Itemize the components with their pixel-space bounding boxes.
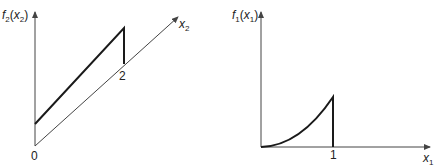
left-plot: f2(x2) x2 2 0 bbox=[2, 8, 190, 163]
f2-ramp-curve bbox=[35, 28, 124, 124]
left-tick-2: 2 bbox=[119, 69, 126, 83]
left-y-label: f2(x2) bbox=[2, 8, 28, 24]
right-plot: f1(x1) x1 1 bbox=[232, 8, 434, 166]
right-x1-label: x1 bbox=[422, 151, 434, 166]
figure-canvas: f2(x2) x2 2 0 f1(x1) x1 1 bbox=[0, 0, 439, 166]
f1-convex-curve bbox=[261, 97, 333, 147]
left-x2-label: x2 bbox=[178, 17, 190, 33]
left-x2-axis bbox=[35, 17, 178, 146]
left-origin-0: 0 bbox=[31, 149, 38, 163]
right-tick-1: 1 bbox=[330, 148, 337, 162]
right-y-label: f1(x1) bbox=[232, 8, 258, 24]
